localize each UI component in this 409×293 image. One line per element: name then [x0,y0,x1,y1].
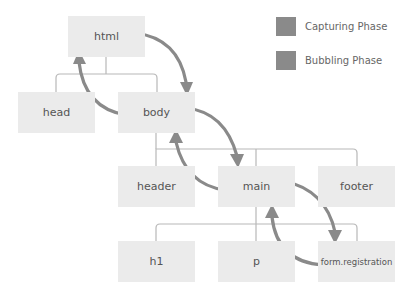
node-main-label: main [243,180,270,193]
node-head: head [18,92,95,133]
node-html-label: html [94,30,119,43]
node-body-label: body [143,106,170,119]
arrowheads [73,50,342,244]
tree-connectors [56,57,357,241]
node-main: main [218,166,295,207]
node-h1: h1 [118,241,195,282]
node-head-label: head [43,106,70,119]
node-footer-label: footer [340,180,373,193]
node-header: header [118,166,195,207]
node-p: p [218,241,295,282]
node-html: html [68,16,145,57]
legend-capturing-label: Capturing Phase [305,21,387,32]
node-footer: footer [318,166,395,207]
node-form-registration: form.registration [318,241,395,282]
legend-capturing: Capturing Phase [276,17,387,36]
node-body: body [118,92,195,133]
node-header-label: header [137,180,176,193]
node-form-label: form.registration [321,257,393,267]
legend-bubbling-swatch [276,51,296,70]
node-h1-label: h1 [150,255,164,268]
legend-bubbling: Bubbling Phase [276,51,382,70]
legend-bubbling-label: Bubbling Phase [305,55,382,66]
node-p-label: p [253,255,260,268]
legend-capturing-swatch [276,17,296,36]
